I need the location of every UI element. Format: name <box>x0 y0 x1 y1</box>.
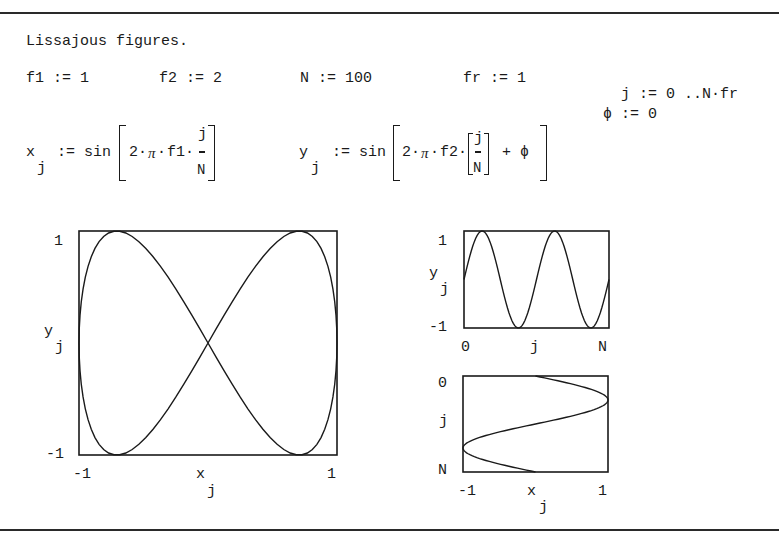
y-vs-j-curve <box>464 231 609 328</box>
liss-x-tick-left: -1 <box>73 467 91 483</box>
yj-x-tick-right: N <box>598 340 607 356</box>
liss-ylabel-sub: j <box>55 340 64 356</box>
jx-y-tick-top: 0 <box>438 376 447 392</box>
liss-y-tick-bottom: -1 <box>46 447 64 463</box>
plots-canvas <box>0 0 779 555</box>
liss-xlabel: x <box>196 467 205 483</box>
yj-x-tick-left: 0 <box>461 340 470 356</box>
yj-ylabel-sub: j <box>440 282 449 298</box>
jx-y-tick-bottom: N <box>438 463 447 479</box>
lissajous-curve <box>79 231 337 455</box>
yj-ylabel: y <box>429 266 438 282</box>
jx-xlabel: x <box>527 484 536 500</box>
yj-y-tick-top: 1 <box>438 234 447 250</box>
yj-xlabel: j <box>530 340 539 356</box>
jx-xlabel-sub: j <box>539 500 548 516</box>
liss-y-tick-top: 1 <box>54 234 63 250</box>
yj-y-tick-bottom: -1 <box>429 320 447 336</box>
liss-x-tick-right: 1 <box>327 467 336 483</box>
jx-x-tick-right: 1 <box>598 484 607 500</box>
liss-xlabel-sub: j <box>207 484 216 500</box>
j-vs-x-curve <box>463 376 608 472</box>
liss-ylabel: y <box>44 324 53 340</box>
jx-ylabel: j <box>439 414 448 430</box>
jx-x-tick-left: -1 <box>458 484 476 500</box>
